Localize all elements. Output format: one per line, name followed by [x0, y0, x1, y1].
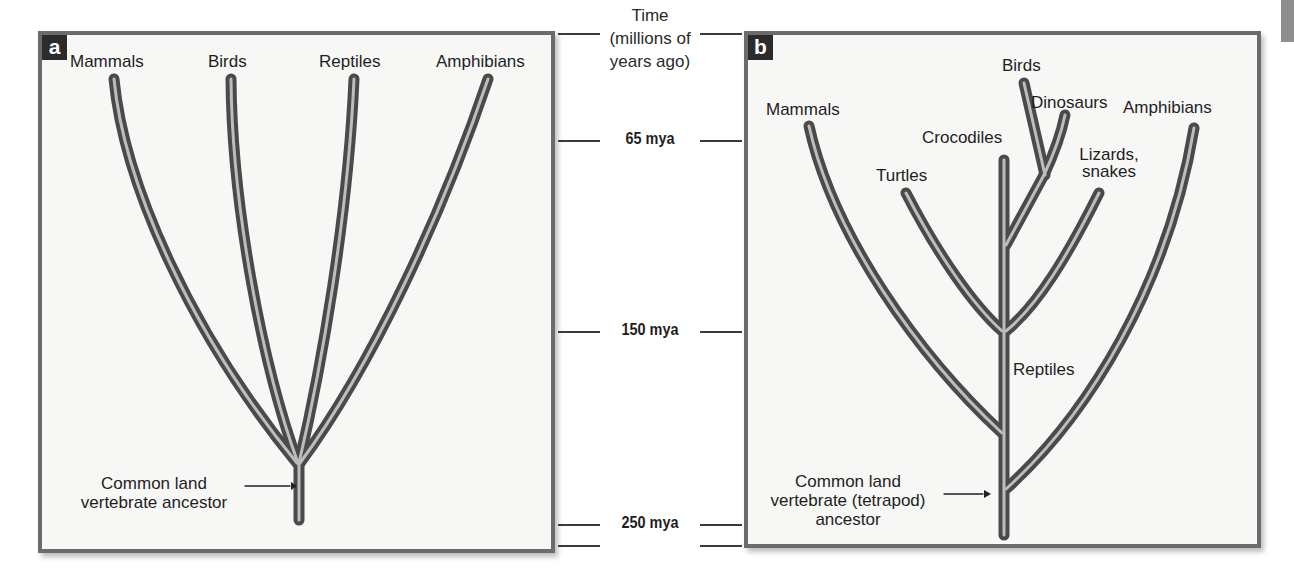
- taxon-label-lizards-snakes: Lizards, snakes: [1070, 146, 1148, 180]
- axis-tick-bottom-right: [700, 545, 742, 547]
- tick-label-65: 65 mya: [569, 129, 731, 149]
- taxon-label-mammals: Mammals: [70, 52, 144, 71]
- taxon-label-crocodiles: Crocodiles: [922, 128, 1002, 147]
- ancestor-label-a: Common land vertebrate ancestor: [56, 474, 252, 512]
- time-axis: Time (millions of years ago) 65 mya 150 …: [555, 0, 745, 580]
- tick-label-250: 250 mya: [569, 513, 731, 533]
- taxon-label-birds-b: Birds: [1002, 56, 1041, 75]
- panel-a-branches: [42, 35, 551, 549]
- taxon-label-turtles: Turtles: [876, 166, 927, 185]
- tick-label-150: 150 mya: [569, 320, 731, 340]
- panel-a-simple-tree: a Mammals Birds Reptiles Amp: [38, 31, 555, 553]
- ancestor-label-b: Common land vertebrate (tetrapod) ancest…: [748, 472, 948, 529]
- taxon-label-dinosaurs: Dinosaurs: [1031, 93, 1108, 112]
- taxon-label-amphibians-b: Amphibians: [1123, 98, 1212, 117]
- panel-b-detailed-tree: b: [744, 31, 1261, 548]
- taxon-label-amphibians: Amphibians: [436, 52, 525, 71]
- taxon-label-birds: Birds: [208, 52, 247, 71]
- axis-tick-bottom-left: [558, 545, 600, 547]
- taxon-label-mammals-b: Mammals: [766, 100, 840, 119]
- taxon-label-reptiles: Reptiles: [319, 52, 380, 71]
- page-edge-tab: [1281, 0, 1294, 42]
- axis-title: Time (millions of years ago): [555, 4, 745, 73]
- clade-label-reptiles: Reptiles: [1013, 360, 1074, 379]
